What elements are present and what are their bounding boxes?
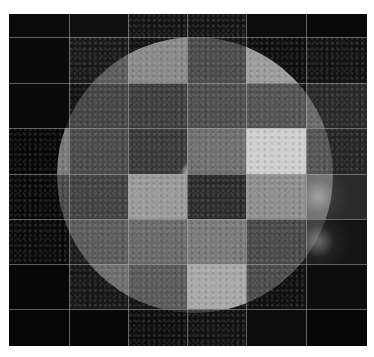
corona-glow <box>306 264 351 309</box>
surface-texture <box>9 128 69 174</box>
mosaic-tile <box>69 309 128 346</box>
surface-texture <box>128 309 187 346</box>
surface-texture <box>69 219 128 264</box>
mosaic-tile <box>306 37 367 83</box>
mosaic-tile <box>246 14 306 37</box>
mosaic-tile <box>306 219 367 264</box>
surface-texture <box>9 174 69 219</box>
grid-divider-horizontal <box>9 37 367 38</box>
mosaic-tile <box>69 219 128 264</box>
grid-divider-horizontal <box>9 128 367 129</box>
corona-glow <box>39 19 69 37</box>
mosaic-tile <box>128 83 187 128</box>
mosaic-tile <box>246 264 306 309</box>
corona-glow <box>39 264 69 309</box>
surface-texture <box>306 83 367 128</box>
mosaic-tile <box>128 309 187 346</box>
surface-texture <box>69 128 128 174</box>
mosaic-tile <box>187 14 246 37</box>
mosaic-tile <box>69 37 128 83</box>
surface-texture <box>187 14 246 37</box>
surface-texture <box>187 83 246 128</box>
grid-divider-horizontal <box>9 219 367 220</box>
corona-glow <box>39 83 69 128</box>
surface-texture <box>246 83 306 128</box>
sun-disc-segment <box>57 37 69 83</box>
corona-glow <box>69 19 128 37</box>
mosaic-tile <box>69 174 128 219</box>
surface-texture <box>246 128 306 174</box>
surface-texture <box>128 174 187 219</box>
mosaic-tile <box>128 264 187 309</box>
surface-texture <box>187 37 246 83</box>
grid-divider-horizontal <box>9 83 367 84</box>
mosaic-tile <box>246 219 306 264</box>
corona-glow <box>306 309 351 331</box>
grid-divider-vertical <box>246 14 247 346</box>
surface-texture <box>128 128 187 174</box>
grid-divider-horizontal <box>9 174 367 175</box>
surface-texture <box>187 264 246 309</box>
surface-texture <box>69 264 128 309</box>
mosaic-tile <box>9 264 69 309</box>
mosaic-tile <box>246 37 306 83</box>
surface-texture <box>187 174 246 219</box>
mosaic-tile <box>246 128 306 174</box>
mosaic-tile <box>187 37 246 83</box>
mosaic-tile <box>9 309 69 346</box>
surface-texture <box>246 264 306 309</box>
mosaic-tile <box>128 128 187 174</box>
mosaic-tile <box>9 14 69 37</box>
surface-texture <box>306 128 367 174</box>
mosaic-tile <box>306 174 367 219</box>
corona-glow <box>39 37 69 83</box>
mosaic-tile <box>9 128 69 174</box>
surface-texture <box>187 219 246 264</box>
mosaic-tile <box>128 37 187 83</box>
mosaic-tile <box>69 264 128 309</box>
mosaic-tile <box>69 128 128 174</box>
mosaic-tile <box>9 219 69 264</box>
mosaic-tile <box>246 174 306 219</box>
grid-divider-vertical <box>69 14 70 346</box>
surface-texture <box>69 83 128 128</box>
mosaic-tile <box>9 174 69 219</box>
mosaic-tile <box>246 83 306 128</box>
surface-texture <box>128 219 187 264</box>
mosaic-tile <box>128 174 187 219</box>
mosaic-tile <box>128 219 187 264</box>
surface-texture <box>306 37 367 83</box>
mosaic-tile <box>69 14 128 37</box>
mosaic-tile <box>306 83 367 128</box>
corona-glow <box>246 19 306 37</box>
corona-glow <box>39 309 69 331</box>
surface-texture <box>246 37 306 83</box>
mosaic-tile <box>69 83 128 128</box>
surface-texture <box>128 264 187 309</box>
solar-mosaic <box>9 14 367 346</box>
mosaic-tile <box>187 174 246 219</box>
mosaic-tile <box>187 128 246 174</box>
mosaic-tile <box>187 219 246 264</box>
corona-glow <box>306 19 351 37</box>
grid-divider-horizontal <box>9 264 367 265</box>
mosaic-tile <box>306 14 367 37</box>
surface-texture <box>306 174 367 219</box>
surface-texture <box>246 219 306 264</box>
surface-texture <box>69 174 128 219</box>
grid-divider-vertical <box>306 14 307 346</box>
mosaic-tile <box>187 83 246 128</box>
mosaic-tile <box>128 14 187 37</box>
mosaic-tile <box>246 309 306 346</box>
surface-texture <box>128 37 187 83</box>
mosaic-tile <box>306 128 367 174</box>
grid-divider-horizontal <box>9 309 367 310</box>
surface-texture <box>69 37 128 83</box>
grid-divider-vertical <box>187 14 188 346</box>
mosaic-tile <box>306 264 367 309</box>
surface-texture <box>128 14 187 37</box>
surface-texture <box>128 83 187 128</box>
surface-texture <box>187 309 246 346</box>
sun-disc-segment <box>57 264 69 309</box>
surface-texture <box>187 128 246 174</box>
